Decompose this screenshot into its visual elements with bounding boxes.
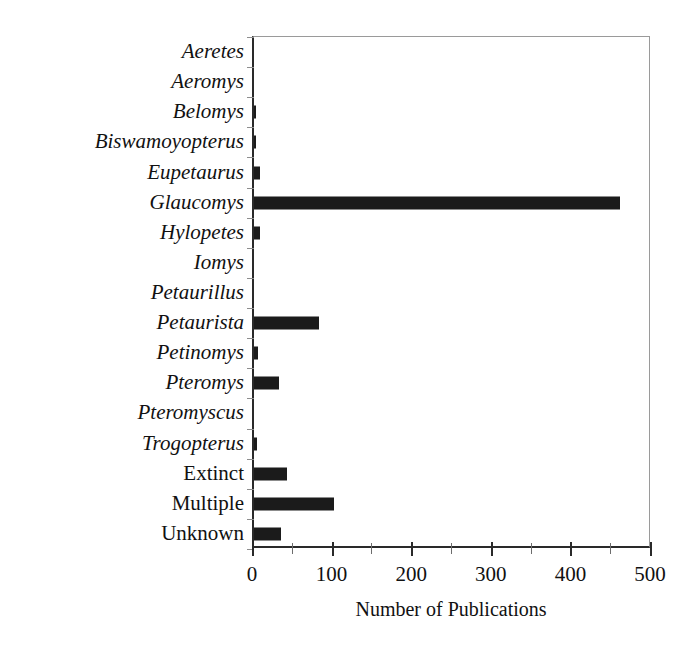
bar-row xyxy=(254,37,649,67)
bar-row xyxy=(254,248,649,278)
y-axis-tick xyxy=(247,308,254,309)
x-axis-tick-major xyxy=(650,542,652,556)
bar-row xyxy=(254,127,649,157)
category-label: Biswamoyopterus xyxy=(0,131,244,152)
x-axis-tick-label: 200 xyxy=(395,562,427,587)
category-label: Pteromys xyxy=(0,372,244,393)
bar xyxy=(254,377,279,390)
x-axis-tick-major xyxy=(570,542,572,556)
x-axis-tick-label: 300 xyxy=(475,562,507,587)
bar xyxy=(254,106,256,119)
x-axis-tick-label: 100 xyxy=(316,562,348,587)
x-axis-tick-minor xyxy=(451,543,452,554)
category-label: Petinomys xyxy=(0,342,244,363)
category-label: Petaurista xyxy=(0,312,244,333)
bar-row xyxy=(254,157,649,187)
x-axis-tick-minor xyxy=(292,543,293,554)
category-label: Multiple xyxy=(0,493,244,514)
bar-row xyxy=(254,459,649,489)
x-axis-tick-label: 400 xyxy=(555,562,587,587)
category-label: Glaucomys xyxy=(0,192,244,213)
category-label: Trogopterus xyxy=(0,433,244,454)
y-axis-tick xyxy=(247,127,254,128)
bar xyxy=(254,196,620,209)
x-axis-tick-minor xyxy=(371,543,372,554)
bar-row xyxy=(254,398,649,428)
category-label: Belomys xyxy=(0,101,244,122)
y-axis-tick xyxy=(247,429,254,430)
bar-row xyxy=(254,489,649,519)
y-axis-tick xyxy=(247,67,254,68)
bar-row xyxy=(254,218,649,248)
y-axis-tick xyxy=(247,278,254,279)
bar xyxy=(254,467,287,480)
y-axis-tick xyxy=(247,489,254,490)
bar xyxy=(254,226,260,239)
category-label: Aeretes xyxy=(0,41,244,62)
bar-row xyxy=(254,67,649,97)
x-axis-tick-minor xyxy=(610,543,611,554)
bar xyxy=(254,166,260,179)
category-label: Pteromyscus xyxy=(0,402,244,423)
y-axis-tick xyxy=(247,218,254,219)
bar-row xyxy=(254,278,649,308)
category-label: Eupetaurus xyxy=(0,162,244,183)
category-label: Extinct xyxy=(0,463,244,484)
x-axis-tick-label: 0 xyxy=(247,562,258,587)
x-axis-title: Number of Publications xyxy=(252,598,650,621)
category-label: Hylopetes xyxy=(0,222,244,243)
y-axis-tick xyxy=(247,398,254,399)
category-axis-labels: AeretesAeromysBelomysBiswamoyopterusEupe… xyxy=(0,36,244,548)
bar xyxy=(254,136,256,149)
x-axis-tick-label: 500 xyxy=(634,562,666,587)
x-axis-tick-major xyxy=(252,542,254,556)
y-axis-tick xyxy=(247,459,254,460)
bar-row xyxy=(254,338,649,368)
x-axis-tick-minor xyxy=(531,543,532,554)
y-axis-tick xyxy=(247,188,254,189)
bar-row xyxy=(254,368,649,398)
x-axis-tick-major xyxy=(411,542,413,556)
category-label: Iomys xyxy=(0,252,244,273)
category-label: Aeromys xyxy=(0,71,244,92)
publications-bar-chart: AeretesAeromysBelomysBiswamoyopterusEupe… xyxy=(0,0,688,655)
y-axis-tick xyxy=(247,37,254,38)
y-axis-tick xyxy=(247,97,254,98)
bar-row xyxy=(254,188,649,218)
y-axis-tick xyxy=(247,368,254,369)
x-axis-tick-major xyxy=(332,542,334,556)
bar xyxy=(254,437,257,450)
x-axis-tick-major xyxy=(491,542,493,556)
category-label: Unknown xyxy=(0,523,244,544)
bar-row xyxy=(254,429,649,459)
bar xyxy=(254,317,319,330)
y-axis-tick xyxy=(247,338,254,339)
bar-row xyxy=(254,97,649,127)
category-label: Petaurillus xyxy=(0,282,244,303)
y-axis-tick xyxy=(247,248,254,249)
plot-area xyxy=(252,36,650,548)
y-axis-tick xyxy=(247,519,254,520)
bar xyxy=(254,347,258,360)
bar xyxy=(254,497,334,510)
y-axis-tick xyxy=(247,157,254,158)
bar-row xyxy=(254,308,649,338)
bar xyxy=(254,527,281,540)
